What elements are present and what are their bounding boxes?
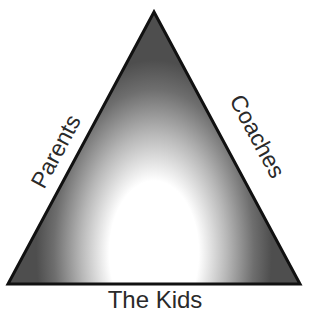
triangle-diagram: Parents Coaches The Kids	[0, 0, 309, 314]
label-the-kids: The Kids	[108, 286, 203, 313]
